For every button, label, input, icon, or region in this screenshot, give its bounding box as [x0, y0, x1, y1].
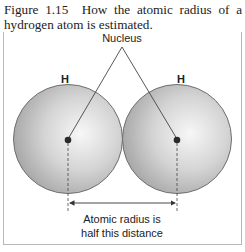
- radius-label-line1: Atomic radius is: [83, 213, 161, 225]
- hydrogen-radius-diagram: Nucleus H H Atomic radius is half this d…: [0, 0, 245, 252]
- atom-symbol-right: H: [177, 73, 185, 85]
- nucleus-dot-right: [174, 137, 181, 144]
- nucleus-dot-left: [65, 137, 72, 144]
- nucleus-label: Nucleus: [102, 32, 142, 44]
- atom-symbol-left: H: [61, 73, 69, 85]
- radius-label-line2: half this distance: [81, 227, 163, 239]
